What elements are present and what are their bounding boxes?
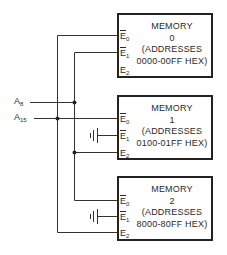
pin-e2: E2	[120, 229, 129, 241]
memory-1-label: MEMORY 1 (ADDRESSES 0100-01FF HEX)	[133, 103, 211, 149]
a15-label: A15	[14, 113, 27, 125]
pin-e0: E0	[120, 32, 129, 44]
pin-e0: E0	[120, 197, 129, 209]
pin-e1: E1	[120, 49, 129, 61]
junction-dot	[73, 151, 77, 155]
pin-e1: E1	[120, 213, 129, 225]
pin-e1: E1	[120, 132, 129, 144]
pin-e0: E0	[120, 115, 129, 127]
a8-label: A8	[14, 97, 23, 109]
memory-0-label: MEMORY 0 (ADDRESSES 0000-00FF HEX)	[133, 21, 211, 67]
junction-dot	[73, 101, 77, 105]
mem1-battery-icon	[91, 128, 98, 143]
memory-2-label: MEMORY 2 (ADDRESSES 8000-80FF HEX)	[133, 184, 211, 230]
mem2-battery-icon	[91, 209, 98, 224]
pin-e2: E2	[120, 149, 129, 161]
pin-e2: E2	[120, 66, 129, 78]
memory-0-block: E0 E1 E2 MEMORY 0 (ADDRESSES 0000-00FF H…	[117, 13, 213, 78]
junction-dot	[56, 117, 60, 121]
memory-2-block: E0 E1 E2 MEMORY 2 (ADDRESSES 8000-80FF H…	[117, 176, 213, 241]
memory-1-block: E0 E1 E2 MEMORY 1 (ADDRESSES 0100-01FF H…	[117, 95, 213, 160]
